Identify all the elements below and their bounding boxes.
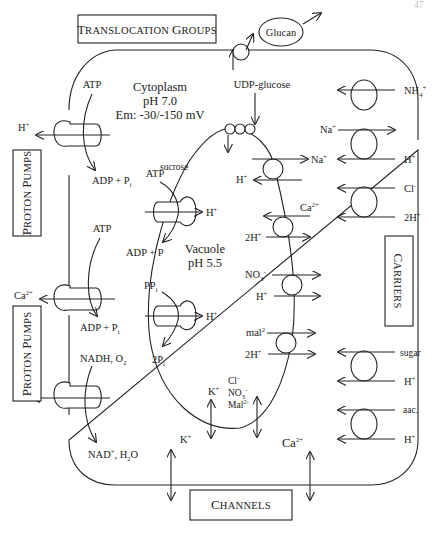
svg-text:Na+: Na+ — [311, 153, 327, 165]
tonoplast-carrier-na-h: Na+ H+ — [236, 153, 327, 185]
svg-text:PPi: PPi — [144, 280, 158, 293]
glucan-label: Glucan — [266, 27, 297, 38]
tonoplast-channel-k: K+ — [208, 385, 220, 438]
cytoplasm-title: Cytoplasm — [133, 80, 187, 94]
svg-text:ATP: ATP — [93, 223, 112, 234]
svg-text:2H+: 2H+ — [245, 231, 262, 243]
svg-text:H+: H+ — [404, 375, 416, 387]
tonoplast-pump-ppi: H+ PPi 2Pi — [144, 280, 218, 367]
svg-text:PROTON PUMPS: PROTON PUMPS — [19, 312, 34, 397]
svg-text:Ca2+: Ca2+ — [282, 436, 303, 450]
svg-text:Ca2+: Ca2+ — [300, 201, 319, 213]
svg-text:NAD+, H2O: NAD+, H2O — [88, 448, 139, 462]
svg-text:NO3-: NO3- — [245, 268, 266, 282]
svg-text:ADP + Pi: ADP + Pi — [92, 175, 132, 188]
svg-text:Vacuole: Vacuole — [185, 242, 226, 256]
udp-glucose-label: UDP-glucose — [234, 79, 291, 90]
svg-text:ADP + P: ADP + P — [126, 247, 164, 258]
tonoplast-carrier-mal-2h: mal2 2H+ — [245, 326, 315, 360]
svg-text:ATP: ATP — [146, 168, 165, 179]
svg-text:Cl-: Cl- — [404, 182, 416, 194]
svg-text:H+: H+ — [256, 290, 268, 302]
svg-text:Na+: Na+ — [320, 123, 336, 135]
svg-text:CHANNELS: CHANNELS — [211, 497, 271, 512]
glucan-synthase: Glucan — [233, 13, 321, 70]
plasma-channel-k: K+ — [171, 433, 192, 500]
svg-text:H+: H+ — [236, 173, 248, 185]
svg-text:Ca2+: Ca2+ — [14, 289, 33, 301]
translocation-groups-box: TRANSLOCATION GROUPS — [77, 15, 217, 43]
plasma-carrier-cl-2h: Cl- 2H+ — [338, 182, 421, 223]
page-number: 47 — [414, 0, 424, 10]
carriers-box: CARRIERS — [385, 236, 413, 326]
channels-box: CHANNELS — [190, 490, 292, 520]
svg-text:H+: H+ — [206, 206, 218, 218]
plasma-carrier-aac-h: aac. H+ — [338, 405, 418, 445]
svg-text:H+: H+ — [404, 433, 416, 445]
proton-pumps-box-1: PROTON PUMPS — [13, 150, 41, 236]
svg-text:pH 5.5: pH 5.5 — [188, 256, 222, 270]
plasma-carrier-nh4: NH4+ — [338, 80, 426, 110]
vacuole-info: Vacuole pH 5.5 — [185, 242, 226, 270]
svg-text:NADH, O2: NADH, O2 — [80, 353, 126, 366]
cytoplasm-info: Cytoplasm pH 7.0 Em: -30/-150 mV — [116, 80, 205, 122]
cell-transport-diagram: 47 TRANSLOCATION GROUPS Glucan Cytoplasm… — [0, 0, 434, 535]
svg-text:sugar: sugar — [400, 348, 421, 358]
svg-text:PROTON PUMPS: PROTON PUMPS — [19, 151, 34, 236]
svg-text:mal2: mal2 — [246, 326, 265, 338]
cytoplasm-ph: pH 7.0 — [143, 94, 177, 108]
svg-text:K+: K+ — [180, 433, 192, 445]
cytoplasm-em: Em: -30/-150 mV — [116, 108, 205, 122]
sucrose-synthase-complex — [225, 124, 255, 134]
plasma-carrier-na-h: Na+ H+ — [320, 123, 416, 165]
svg-text:aac.: aac. — [403, 405, 418, 415]
svg-text:H+: H+ — [18, 121, 30, 133]
svg-text:H+: H+ — [404, 153, 416, 165]
svg-text:ADP + Pi: ADP + Pi — [80, 322, 120, 335]
svg-text:NH4+: NH4+ — [404, 84, 426, 98]
svg-text:TRANSLOCATION GROUPS: TRANSLOCATION GROUPS — [77, 22, 217, 37]
svg-text:Cl-: Cl- — [228, 374, 239, 386]
svg-text:K+: K+ — [208, 385, 220, 397]
svg-text:H+: H+ — [206, 310, 218, 322]
svg-text:CARRIERS: CARRIERS — [391, 253, 406, 308]
plasma-carrier-sugar-h: sugar H+ — [338, 348, 421, 387]
svg-text:ATP: ATP — [83, 79, 102, 90]
tonoplast-carrier-ca-2h: Ca2+ 2H+ — [245, 201, 319, 243]
proton-pumps-box-2: PROTON PUMPS — [13, 306, 41, 401]
svg-text:Mal2-: Mal2- — [228, 398, 249, 410]
svg-text:2H+: 2H+ — [245, 348, 262, 360]
